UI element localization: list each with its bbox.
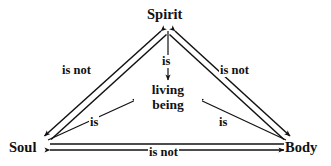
node-label-soul: Soul: [9, 140, 36, 155]
diagram-canvas: Spirit Soul Body living being is not is …: [0, 0, 331, 166]
living-being-line-2: being: [134, 98, 202, 113]
edge-label-spirit-center: is: [161, 55, 171, 68]
living-being-line-1: living: [134, 83, 202, 98]
edge-label-spirit-soul: is not: [61, 64, 92, 77]
edge-label-soul-center: is: [89, 116, 99, 129]
node-label-body: Body: [285, 140, 317, 155]
node-label-spirit: Spirit: [147, 7, 182, 22]
node-label-living-being: living being: [134, 83, 202, 112]
edge-label-body-center: is: [218, 116, 228, 129]
edge-label-spirit-body: is not: [219, 64, 250, 77]
edge-label-soul-body: is not: [148, 146, 179, 159]
